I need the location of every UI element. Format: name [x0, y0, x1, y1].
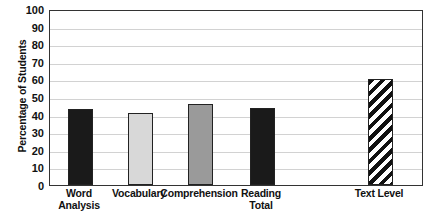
y-axis-tick-label: 10 [14, 163, 44, 174]
bar-chart: Percentage of Students 10090807060504030… [0, 0, 429, 223]
x-axis-tick-label-line: Text Level [334, 188, 424, 200]
bar [188, 104, 213, 185]
bar [128, 113, 153, 185]
y-axis-tick-label: 30 [14, 128, 44, 139]
y-axis-tick-label: 70 [14, 57, 44, 68]
y-axis-tick-label: 100 [14, 5, 44, 16]
y-axis-tick-labels: 1009080706050403020100 [14, 10, 44, 186]
y-axis-tick-label: 50 [14, 93, 44, 104]
bars-layer [50, 11, 422, 185]
y-axis-tick-label: 60 [14, 75, 44, 86]
x-axis-tick-label: Text Level [334, 188, 424, 200]
bar [68, 109, 93, 185]
x-axis-tick-label-line: Total [216, 200, 306, 212]
x-axis-tick-label: ReadingTotal [216, 188, 306, 212]
x-axis-tick-labels: WordAnalysisVocabularyComprehensionReadi… [49, 188, 423, 223]
plot-area [49, 10, 423, 186]
y-axis-tick-label: 40 [14, 110, 44, 121]
y-axis-tick-label: 20 [14, 145, 44, 156]
y-axis-tick-label: 80 [14, 40, 44, 51]
y-axis-tick-label: 90 [14, 22, 44, 33]
bar [250, 108, 275, 185]
x-axis-tick-label-line: Analysis [34, 200, 124, 212]
bar [368, 79, 393, 185]
x-axis-tick-label-line: Reading [216, 188, 306, 200]
